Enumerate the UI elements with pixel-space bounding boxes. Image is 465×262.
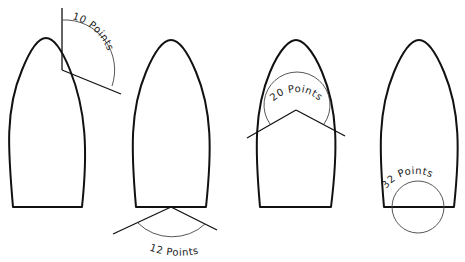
label-12-points: 12 Points [148, 242, 199, 258]
boat-2: 12 Points [113, 40, 217, 258]
label-32-points: 32 Points [379, 165, 434, 191]
label-10-points: 10 Points [71, 10, 116, 52]
diagram-canvas: 10 Points 12 Points 20 Points 32 Points [0, 0, 465, 262]
angle-line-right [171, 207, 217, 230]
label-20-points: 20 Points [268, 83, 325, 103]
angle-line-left [113, 207, 171, 234]
angle-line-left [247, 110, 296, 138]
angle-line-right [296, 110, 345, 136]
hull-outline [9, 38, 85, 207]
angle-arc [62, 20, 115, 86]
hull-outline [133, 40, 210, 207]
boat-1: 10 Points [9, 8, 121, 207]
boat-3: 20 Points [247, 40, 345, 207]
boat-4: 32 Points [379, 40, 457, 233]
angle-arc [138, 223, 205, 237]
hull-outline [257, 40, 336, 207]
angle-line-diagonal [62, 70, 121, 94]
